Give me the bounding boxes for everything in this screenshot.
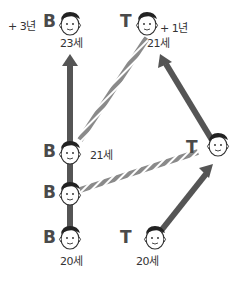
t-outbound-arrow (160, 164, 213, 232)
b-top-age-label: 23세 (60, 34, 83, 50)
t-extra-years-label: + 1년 (160, 19, 188, 35)
face-b-top-icon (60, 12, 81, 35)
face-b-lower-icon (60, 182, 81, 205)
rope-signal-upper (80, 38, 147, 140)
letter-t-top: T (120, 13, 132, 30)
t-top-age-label: 21세 (147, 34, 170, 50)
t-start-age-label: 20세 (136, 252, 159, 268)
letter-b-lower: B (43, 184, 56, 201)
letter-b-mid: B (43, 143, 56, 160)
b-extra-years-label: + 3년 (8, 17, 36, 33)
face-b-mid-icon (60, 141, 81, 164)
face-t-turn-icon (208, 133, 229, 156)
b-start-age-label: 20세 (60, 252, 83, 268)
face-t-top-icon (137, 12, 158, 35)
face-b-start-icon (60, 226, 81, 249)
diagram-canvas (0, 0, 237, 286)
letter-t-start: T (120, 229, 132, 246)
letter-t-turn: T (186, 139, 198, 156)
letter-b-top: B (43, 13, 56, 30)
b-mid-age-label: 21세 (90, 146, 113, 162)
letter-b-start: B (43, 229, 56, 246)
face-t-start-icon (145, 226, 166, 249)
t-return-arrow (158, 54, 212, 140)
